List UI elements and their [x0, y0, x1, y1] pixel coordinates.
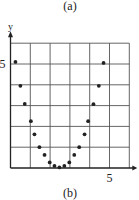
data-point: [72, 153, 76, 157]
axis-labels: 55y: [0, 21, 113, 185]
y-axis-label: y: [8, 21, 13, 32]
scatter-chart: 55y: [0, 0, 139, 200]
data-point: [29, 119, 33, 123]
x-tick-label: 5: [107, 171, 113, 185]
data-point: [62, 164, 66, 168]
data-point: [23, 102, 27, 106]
data-points: [14, 60, 106, 169]
data-point: [67, 160, 71, 164]
data-point: [19, 84, 23, 88]
y-tick-label: 5: [0, 57, 6, 71]
data-point: [43, 153, 47, 157]
data-point: [77, 145, 81, 149]
data-point: [38, 145, 42, 149]
data-point: [92, 102, 96, 106]
data-point: [14, 60, 18, 64]
data-point: [33, 132, 37, 136]
data-point: [97, 84, 101, 88]
data-point: [86, 119, 90, 123]
caption-b: (b): [50, 187, 90, 199]
axes: [8, 31, 137, 170]
data-point: [53, 164, 57, 168]
x-axis-arrow-icon: [132, 166, 137, 171]
data-point: [48, 160, 52, 164]
data-point: [58, 165, 62, 169]
data-point: [102, 61, 106, 65]
data-point: [83, 132, 87, 136]
grid-lines: [11, 43, 130, 168]
